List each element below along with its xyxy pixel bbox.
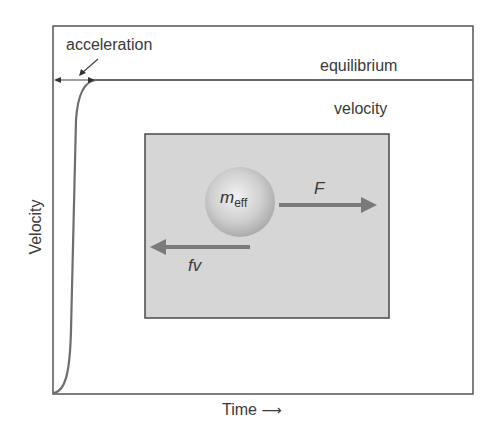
velocity-curve [53,80,96,393]
x-axis-arrow-icon: ⟶ [261,402,281,418]
x-axis-text: Time [222,401,257,418]
y-axis-label: Velocity [27,192,45,262]
diagram-canvas [0,0,497,430]
acceleration-label: acceleration [66,36,152,54]
acceleration-pointer-icon [79,59,98,76]
equilibrium-label: equilibrium [320,57,397,75]
mass-subscript: eff [234,196,247,210]
velocity-label: velocity [334,100,387,118]
acceleration-span-arrow [54,77,95,83]
mass-label: meff [220,188,247,208]
drag-label: fv [188,256,201,276]
mass-symbol: m [220,188,234,207]
x-axis-label: Time ⟶ [222,401,282,419]
inset-box [145,134,389,318]
force-label: F [314,179,324,199]
